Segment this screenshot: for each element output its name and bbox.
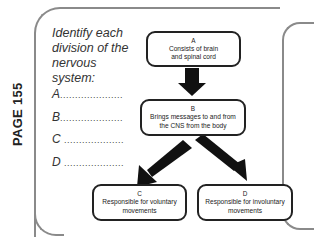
- diagram-box-a: A Consists of brain and spinal cord: [146, 31, 241, 67]
- diagonal-arrow-left-icon: [137, 140, 192, 187]
- box-text-line: Responsible for voluntary: [102, 198, 176, 206]
- box-text-line: the CNS from the body: [159, 122, 226, 130]
- box-letter: D: [243, 190, 248, 198]
- box-text-line: Consists of brain: [169, 45, 218, 53]
- diagram-box-c: C Responsible for voluntary movements: [92, 184, 187, 221]
- diagonal-arrow-right-icon: [195, 134, 247, 181]
- box-letter: B: [191, 105, 195, 113]
- box-text-line: and spinal cord: [171, 53, 216, 61]
- diagram-box-d: D Responsible for involuntary movements: [197, 184, 293, 221]
- box-letter: A: [191, 37, 195, 45]
- box-text-line: Responsible for involuntary: [205, 198, 285, 206]
- box-letter: C: [137, 190, 142, 198]
- box-text-line: Brings messages to and from: [150, 113, 236, 121]
- box-text-line: movements: [122, 207, 156, 215]
- down-arrow-icon: [178, 68, 206, 96]
- box-text-line: movements: [228, 207, 262, 215]
- diagram-box-b: B Brings messages to and from the CNS fr…: [140, 99, 246, 136]
